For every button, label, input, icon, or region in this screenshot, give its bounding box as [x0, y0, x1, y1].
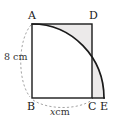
shaded-region [32, 24, 104, 98]
vertex-label-b: B [27, 101, 35, 112]
vertex-label-e: E [100, 101, 108, 112]
vertex-label-c: C [88, 101, 96, 112]
geometry-figure: A D B C E 8 cm xcm [0, 0, 119, 124]
vertex-label-d: D [89, 10, 98, 21]
base-dimension-label: xcm [50, 107, 70, 117]
base-dimension-unit: cm [55, 106, 69, 117]
vertex-label-a: A [28, 10, 36, 21]
height-dimension-label: 8 cm [4, 52, 27, 62]
